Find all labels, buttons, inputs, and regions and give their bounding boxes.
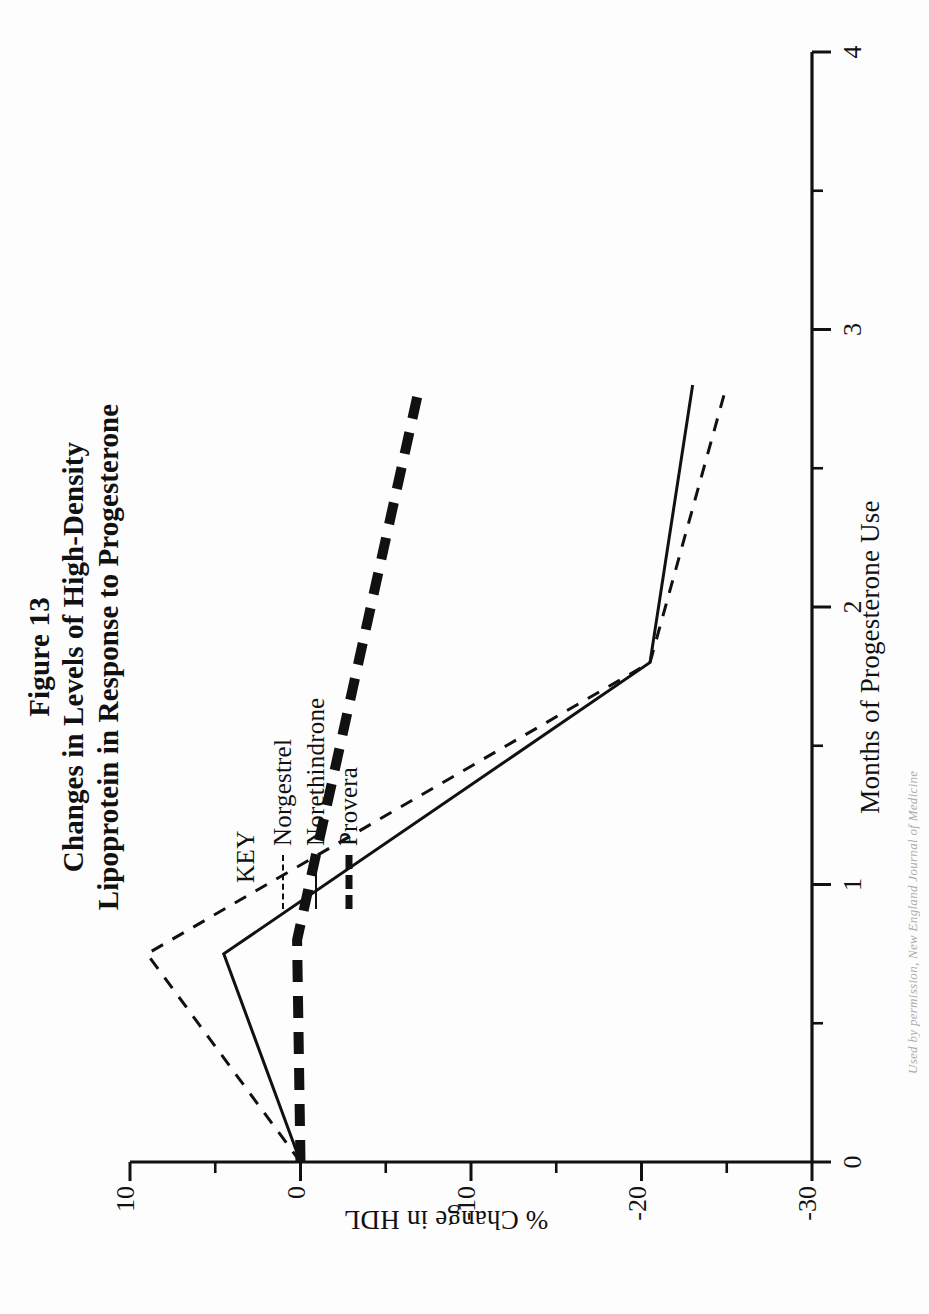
y-axis-title: % Change in HDL bbox=[296, 1204, 596, 1235]
legend: KEY NorgestrelNorethindroneProvera bbox=[232, 579, 365, 909]
rotated-page: Figure 13 Changes in Levels of High-Dens… bbox=[0, 0, 929, 1314]
legend-item-norethindrone: Norethindrone bbox=[299, 579, 332, 909]
legend-item-label: Norethindrone bbox=[302, 698, 330, 846]
legend-item-label: Norgestrel bbox=[269, 739, 297, 846]
y-tick-label: -20 bbox=[623, 1186, 653, 1258]
chart-canvas bbox=[0, 0, 929, 1314]
thick-dashed-line-icon bbox=[342, 855, 356, 909]
legend-item-provera: Provera bbox=[332, 579, 365, 909]
legend-item-label: Provera bbox=[335, 767, 363, 846]
y-tick-label: -30 bbox=[793, 1186, 823, 1258]
legend-item-norgestrel: Norgestrel bbox=[266, 579, 299, 909]
solid-line-icon bbox=[309, 855, 323, 909]
plot-area: 01234100-10-20-30 Months of Progesterone… bbox=[0, 0, 929, 1314]
legend-heading: KEY bbox=[232, 579, 260, 883]
x-axis-title: Months of Progesterone Use bbox=[855, 0, 886, 1314]
credit-line: Used by permission, New England Journal … bbox=[905, 771, 921, 1074]
legend-rows: NorgestrelNorethindroneProvera bbox=[266, 579, 365, 909]
y-tick-label: 10 bbox=[111, 1186, 141, 1258]
dashed-line-icon bbox=[276, 855, 290, 909]
figure-sheet: Figure 13 Changes in Levels of High-Dens… bbox=[0, 0, 929, 1314]
